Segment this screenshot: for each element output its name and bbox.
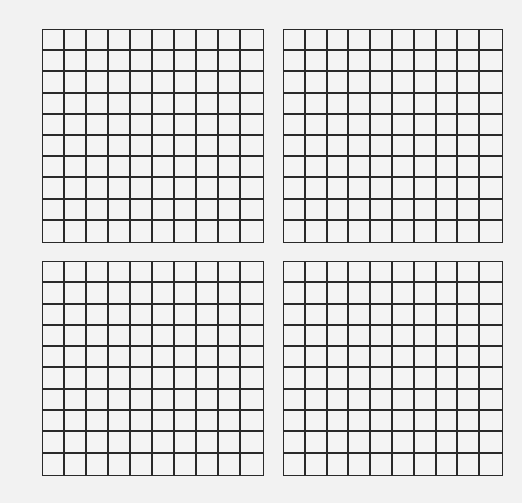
grid-cell	[241, 411, 263, 432]
grid-cell	[371, 178, 393, 199]
grid-cell	[87, 305, 109, 326]
grid-cell	[175, 72, 197, 93]
grid-cell	[175, 411, 197, 432]
grid-cell	[349, 178, 371, 199]
grid-cell	[458, 454, 480, 475]
grid-cell	[241, 200, 263, 221]
grid-cell	[87, 136, 109, 157]
grid-cell	[131, 115, 153, 136]
grid-cell	[458, 411, 480, 432]
grid-cell	[241, 432, 263, 453]
grid-cell	[437, 305, 459, 326]
grid-cell	[87, 326, 109, 347]
grid-cell	[480, 94, 502, 115]
grid-cell	[349, 72, 371, 93]
grid-cell	[306, 454, 328, 475]
grid-cell	[219, 94, 241, 115]
grid-cell	[65, 326, 87, 347]
grid-cell	[43, 390, 65, 411]
grid-cell	[153, 178, 175, 199]
grid-cell	[175, 262, 197, 283]
grid-cell	[219, 283, 241, 304]
grid-cell	[219, 136, 241, 157]
grid-cell	[349, 200, 371, 221]
grid-cell	[197, 432, 219, 453]
grid-cell	[87, 454, 109, 475]
grid-cell	[175, 347, 197, 368]
grid-cell	[371, 115, 393, 136]
grid-cell	[241, 283, 263, 304]
grid-cell	[349, 51, 371, 72]
grid-cell	[328, 326, 350, 347]
grid-cell	[175, 283, 197, 304]
grid-cell	[153, 262, 175, 283]
grid-cell	[87, 157, 109, 178]
grid-cell	[415, 200, 437, 221]
grid-cell	[197, 136, 219, 157]
grid-cell	[109, 368, 131, 389]
grid-cell	[328, 454, 350, 475]
grid-cell	[43, 136, 65, 157]
grid-cell	[284, 454, 306, 475]
grid-cell	[175, 200, 197, 221]
grid-cell	[415, 305, 437, 326]
grid-cell	[458, 72, 480, 93]
grid-cell	[87, 178, 109, 199]
grid-cell	[109, 136, 131, 157]
grid-cell	[131, 454, 153, 475]
grid-cell	[306, 326, 328, 347]
grid-cell	[109, 94, 131, 115]
grid-cell	[241, 94, 263, 115]
grid-cell	[197, 390, 219, 411]
grid-cell	[153, 136, 175, 157]
grid-cell	[306, 178, 328, 199]
grid-cell	[65, 178, 87, 199]
grid-cell	[415, 178, 437, 199]
grid-cell	[43, 221, 65, 242]
grid-cell	[284, 178, 306, 199]
grid-cell	[349, 368, 371, 389]
grid-cell	[43, 30, 65, 51]
grid-cell	[306, 432, 328, 453]
grid-cell	[153, 390, 175, 411]
grid-cell	[175, 432, 197, 453]
grid-cell	[393, 221, 415, 242]
grid-cell	[415, 221, 437, 242]
grid-cell	[241, 51, 263, 72]
grid-cell	[43, 305, 65, 326]
grid-cell	[306, 368, 328, 389]
grid-cell	[109, 200, 131, 221]
grid-cell	[306, 411, 328, 432]
grid-cell	[43, 411, 65, 432]
grid-cell	[197, 347, 219, 368]
grid-cell	[328, 30, 350, 51]
grid-cell	[153, 411, 175, 432]
grid-cell	[458, 115, 480, 136]
grid-cell	[109, 390, 131, 411]
grid-cell	[371, 262, 393, 283]
grid-cell	[437, 411, 459, 432]
grid-cell	[131, 368, 153, 389]
grid-cell	[43, 72, 65, 93]
grid-cell	[371, 411, 393, 432]
grid-cell	[415, 432, 437, 453]
grid-cell	[349, 305, 371, 326]
grid-cell	[437, 115, 459, 136]
grid-cell	[306, 262, 328, 283]
grid-cell	[175, 157, 197, 178]
grid-cell	[43, 94, 65, 115]
grid-cell	[197, 178, 219, 199]
grid-cell	[241, 305, 263, 326]
grid-cell	[458, 326, 480, 347]
grid-cell	[393, 115, 415, 136]
grid-cell	[480, 72, 502, 93]
grid-cell	[109, 72, 131, 93]
grid-cell	[306, 200, 328, 221]
grid-cell	[458, 221, 480, 242]
grid-cell	[480, 200, 502, 221]
grid-cell	[306, 283, 328, 304]
grid-cell	[371, 390, 393, 411]
grid-cell	[328, 157, 350, 178]
grid-cell	[219, 72, 241, 93]
grid-cell	[371, 94, 393, 115]
